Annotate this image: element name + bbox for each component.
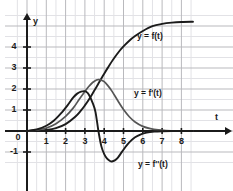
y-tick-label: 4 [7,41,21,51]
x-tick-label: 8 [174,136,188,146]
chart-canvas [0,0,233,191]
y-axis-label: y [33,16,38,26]
y-tick-label: 3 [7,62,21,72]
y-tick-label: 2 [7,83,21,93]
x-tick-label: 4 [97,136,111,146]
y-tick-label: -1 [7,146,21,156]
x-axis-label: t [215,112,218,122]
x-tick-label: 7 [155,136,169,146]
origin-label: 0 [11,132,25,142]
x-tick-label: 6 [136,136,150,146]
x-tick-label: 3 [78,136,92,146]
x-tick-label: 5 [117,136,131,146]
x-tick-label: 2 [59,136,73,146]
curve-annotation-f-prime: y = f'(t) [134,88,162,98]
curve-annotation-f: y = f(t) [137,31,163,41]
curve-annotation-f-double-prime: y = f''(t) [138,159,168,169]
x-tick-label: 1 [39,136,53,146]
y-tick-label: 1 [7,104,21,114]
derivative-graph-figure: y t y = f(t) y = f'(t) y = f''(t) 123456… [0,0,233,191]
